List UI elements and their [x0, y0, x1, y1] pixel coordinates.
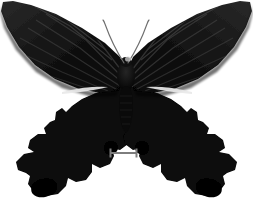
head-glint: [125, 56, 131, 61]
butterfly-specimen-image: [0, 0, 253, 205]
specimen-plate: Pinned dark butterfly specimen with spre…: [0, 0, 253, 205]
